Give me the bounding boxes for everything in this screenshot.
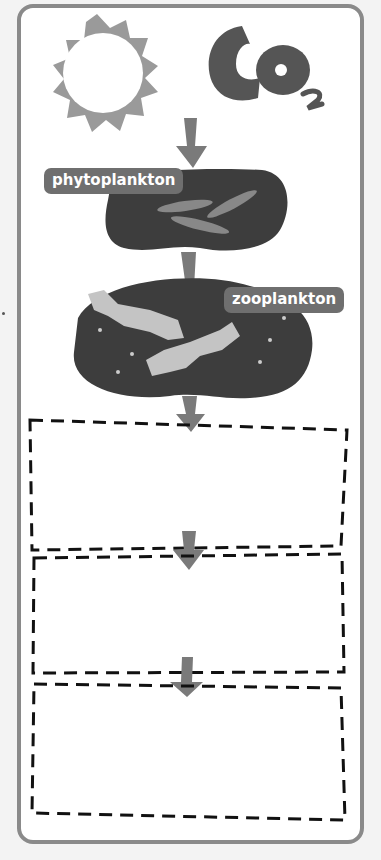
margin-dot [2,312,5,315]
zooplankton-label: zooplankton [224,287,344,313]
answer-box-1[interactable] [30,420,347,550]
answer-box-3[interactable] [32,684,345,820]
co2-icon [209,26,322,108]
arrow-down-icon [173,531,204,570]
answer-box-2[interactable] [33,554,344,673]
food-chain-diagram [0,0,381,860]
sun-icon [53,14,158,132]
arrow-down-icon [176,118,207,168]
phytoplankton-label: phytoplankton [44,168,183,194]
arrow-down-icon [170,657,203,697]
